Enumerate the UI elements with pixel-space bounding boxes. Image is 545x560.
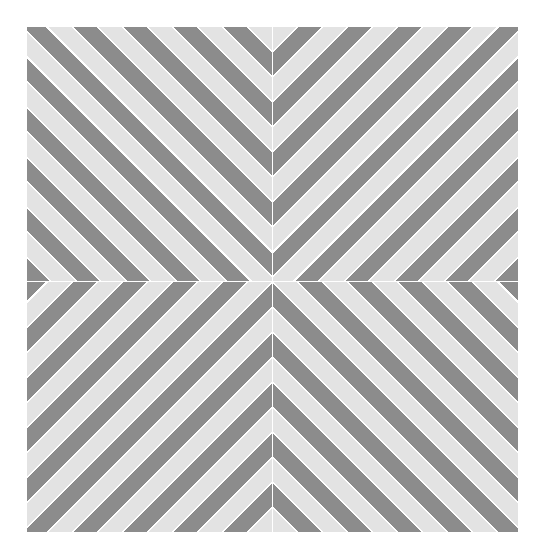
quadrant-top-left <box>27 27 272 281</box>
quadrant-bottom-right <box>273 282 518 532</box>
striped-artwork <box>27 27 518 533</box>
quadrant-bottom-left <box>27 282 272 532</box>
quadrant-top-right <box>273 27 518 281</box>
